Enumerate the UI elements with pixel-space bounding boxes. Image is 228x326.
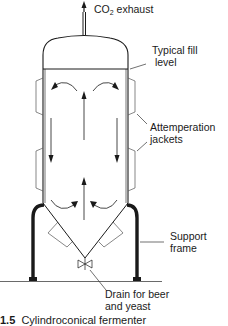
drain-line2: and yeast <box>105 300 169 312</box>
support-line2: frame <box>170 242 207 254</box>
caption-number: 1.5 <box>0 314 15 326</box>
leader-lines <box>90 64 164 290</box>
fill-level-line2: level <box>152 56 198 68</box>
convection-arrows <box>49 82 120 220</box>
caption-text: Cylindroconical fermenter <box>21 314 146 326</box>
fill-level-line1: Typical fill <box>152 44 198 56</box>
drain-label: Drain for beer and yeast <box>105 288 169 312</box>
co2-text: CO <box>94 3 110 15</box>
support-line1: Support <box>170 230 207 242</box>
jackets-line1: Attemperation <box>150 121 215 133</box>
drain-line1: Drain for beer <box>105 288 169 300</box>
valve-icon <box>78 260 85 268</box>
jackets-line2: jackets <box>150 133 215 145</box>
vessel-dome <box>43 36 128 70</box>
jackets-label: Attemperation jackets <box>150 121 215 145</box>
figure-caption: 1.5 Cylindroconical fermenter <box>0 314 146 326</box>
conical-bottom <box>43 203 128 258</box>
up-arrow-icon <box>82 1 87 8</box>
support-frame-label: Support frame <box>170 230 207 254</box>
exhaust-text: exhaust <box>114 3 154 15</box>
drain-valve <box>78 258 92 270</box>
fill-level-label: Typical fill level <box>152 44 198 68</box>
co2-exhaust-label: CO2 exhaust <box>94 3 153 15</box>
co2-exhaust-pipe <box>82 1 87 35</box>
